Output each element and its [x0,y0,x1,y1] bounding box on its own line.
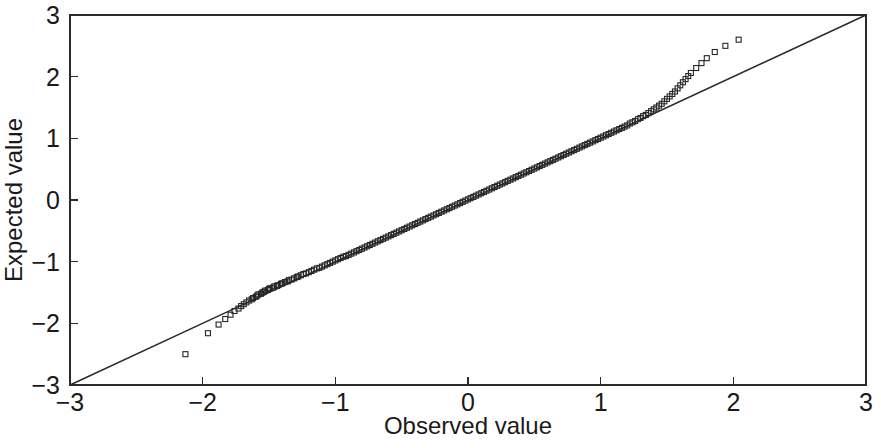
x-tick-label: −1 [321,388,350,416]
x-tick-label: 1 [594,388,608,416]
qq-plot-figure: −3−2−10123 −3−2−10123 Observed value Exp… [0,0,881,448]
y-tick-label: −1 [31,248,60,276]
y-tick-label: −3 [31,371,60,399]
y-tick-label: −2 [31,309,60,337]
y-tick-label: 1 [46,124,60,152]
x-tick-label: −2 [188,388,217,416]
x-axis-title: Observed value [384,412,552,439]
qq-plot-svg: −3−2−10123 −3−2−10123 Observed value Exp… [0,0,881,448]
plot-background [0,0,881,448]
y-axis-title: Expected value [0,118,27,282]
x-tick-label: 2 [726,388,740,416]
y-tick-label: 2 [46,63,60,91]
y-tick-label: 0 [46,186,60,214]
x-tick-label: 3 [859,388,873,416]
y-tick-label: 3 [46,1,60,29]
x-tick-label: −3 [56,388,85,416]
